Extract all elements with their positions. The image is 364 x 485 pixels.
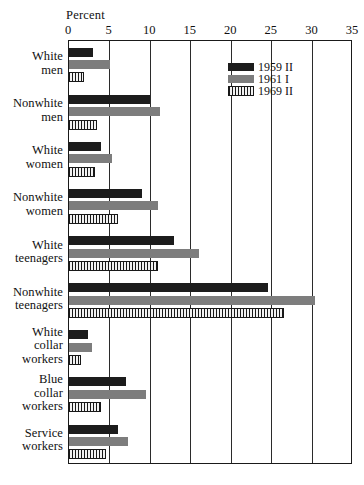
x-axis-tick-labels: 05101520253035: [0, 23, 364, 37]
bar-white-men-1969-ii: [69, 72, 84, 82]
bar-service-workers-1969-ii: [69, 449, 106, 459]
category-label-white-men: Whitemen: [32, 50, 63, 77]
bar-nonwhite-men-1959-ii: [69, 95, 150, 104]
bar-nonwhite-teenagers-1969-ii: [69, 308, 284, 318]
legend-label: 1961 I: [258, 73, 289, 85]
plot-area: [68, 40, 352, 464]
x-tick-label-10: 10: [143, 23, 156, 37]
x-tick-label-15: 15: [183, 23, 196, 37]
legend-item-1959-ii: 1959 II: [228, 61, 324, 72]
gridline-30: [312, 41, 313, 463]
category-label-line: Nonwhite: [13, 286, 63, 300]
category-label-line: White: [22, 326, 63, 340]
category-label-line: teenagers: [13, 299, 63, 313]
bar-nonwhite-men-1961-i: [69, 107, 160, 116]
category-label-nonwhite-men: Nonwhitemen: [13, 97, 63, 124]
bar-blue-collar-workers-1969-ii: [69, 402, 101, 412]
bar-white-women-1969-ii: [69, 167, 95, 177]
bar-service-workers-1959-ii: [69, 425, 118, 434]
category-label-line: White: [26, 144, 63, 158]
category-label-white-collar-workers: Whitecollarworkers: [22, 326, 63, 367]
category-label-line: Service: [22, 427, 63, 441]
category-label-nonwhite-women: Nonwhitewomen: [13, 191, 63, 218]
bar-white-women-1961-i: [69, 154, 112, 163]
bar-white-collar-workers-1961-i: [69, 343, 92, 352]
legend-swatch-icon: [228, 75, 254, 83]
legend-swatch-icon: [228, 86, 254, 96]
category-label-line: Nonwhite: [13, 97, 63, 111]
x-tick-label-0: 0: [65, 23, 71, 37]
legend-label: 1969 II: [258, 85, 293, 97]
bar-white-teenagers-1959-ii: [69, 236, 174, 245]
chart-legend: 1959 II1961 I1969 II: [228, 61, 324, 97]
bar-blue-collar-workers-1959-ii: [69, 377, 126, 386]
category-label-line: collar: [22, 339, 63, 353]
x-axis-title: Percent: [66, 9, 105, 22]
x-tick-label-30: 30: [305, 23, 318, 37]
category-label-line: teenagers: [15, 252, 63, 266]
bar-service-workers-1961-i: [69, 437, 128, 446]
legend-item-1969-ii: 1969 II: [228, 85, 324, 96]
bar-white-men-1959-ii: [69, 48, 93, 57]
category-label-line: Nonwhite: [13, 191, 63, 205]
category-label-line: workers: [22, 440, 63, 454]
bar-blue-collar-workers-1961-i: [69, 390, 146, 399]
category-label-line: workers: [22, 400, 63, 414]
gridline-20: [231, 41, 232, 463]
bar-nonwhite-men-1969-ii: [69, 120, 97, 130]
category-label-line: White: [15, 239, 63, 253]
x-tick-label-35: 35: [346, 23, 359, 37]
category-label-line: women: [26, 158, 63, 172]
category-label-white-teenagers: Whiteteenagers: [15, 239, 63, 266]
category-label-nonwhite-teenagers: Nonwhiteteenagers: [13, 286, 63, 313]
category-label-line: Blue: [22, 373, 63, 387]
bar-chart: Percent 05101520253035 1959 II1961 I1969…: [0, 0, 364, 485]
category-label-line: women: [13, 205, 63, 219]
x-tick-label-20: 20: [224, 23, 237, 37]
bar-nonwhite-teenagers-1959-ii: [69, 283, 268, 292]
bar-nonwhite-teenagers-1961-i: [69, 296, 315, 305]
bar-white-teenagers-1961-i: [69, 249, 199, 258]
bar-nonwhite-women-1969-ii: [69, 214, 118, 224]
gridline-25: [271, 41, 272, 463]
legend-label: 1959 II: [258, 61, 293, 73]
category-label-line: collar: [22, 387, 63, 401]
legend-item-1961-i: 1961 I: [228, 73, 324, 84]
bar-white-teenagers-1969-ii: [69, 261, 158, 271]
bar-white-men-1961-i: [69, 60, 110, 69]
category-label-line: White: [32, 50, 63, 64]
category-label-line: men: [32, 64, 63, 78]
bar-nonwhite-women-1961-i: [69, 201, 158, 210]
bar-white-women-1959-ii: [69, 142, 101, 151]
x-tick-label-5: 5: [105, 23, 111, 37]
category-label-white-women: Whitewomen: [26, 144, 63, 171]
category-label-line: men: [13, 111, 63, 125]
bar-white-collar-workers-1969-ii: [69, 355, 81, 365]
bar-white-collar-workers-1959-ii: [69, 330, 88, 339]
category-label-blue-collar-workers: Bluecollarworkers: [22, 373, 63, 414]
category-label-service-workers: Serviceworkers: [22, 427, 63, 454]
legend-swatch-icon: [228, 63, 254, 71]
category-label-line: workers: [22, 353, 63, 367]
bar-nonwhite-women-1959-ii: [69, 189, 142, 198]
x-tick-label-25: 25: [265, 23, 278, 37]
